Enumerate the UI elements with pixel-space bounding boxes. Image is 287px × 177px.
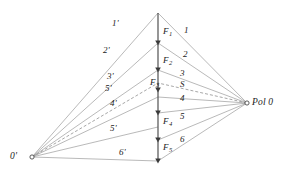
right-ray-label-3: S: [180, 80, 185, 89]
diagram-canvas: [0, 0, 287, 177]
left-ray-2p-1: [32, 43, 158, 157]
left-ray-label-4: 4': [110, 99, 117, 108]
left-ray-label-5: 5': [110, 124, 117, 133]
right-pole-marker: [245, 101, 249, 105]
left-ray-group: [32, 13, 158, 161]
right-ray-label-0: 1: [184, 26, 189, 35]
right-pole-label: Pol 0: [252, 98, 273, 108]
left-ray-label-6: 6': [119, 148, 126, 157]
left-pole-marker: [30, 155, 34, 159]
left-ray-5p-3: [32, 83, 158, 157]
force-label-2: F2: [163, 56, 172, 65]
right-ray-label-6: 6: [180, 135, 185, 144]
right-ray-label-1: 2: [183, 50, 188, 59]
left-ray-3p-2: [32, 70, 158, 157]
force-label-1: F1: [163, 27, 172, 36]
left-ray-4p-4: [32, 97, 158, 157]
pole-marker-group: [30, 101, 249, 159]
left-ray-label-1: 2': [103, 46, 110, 55]
left-pole-label: 0': [10, 152, 17, 162]
force-label-4: F4: [163, 117, 172, 126]
force-label-5: F5: [163, 143, 172, 152]
left-ray-label-2: 3': [107, 72, 114, 81]
left-ray-1p-0: [32, 13, 158, 157]
right-ray-label-2: 3: [180, 69, 185, 78]
right-ray-label-4: 4: [180, 94, 185, 103]
force-label-3: F3: [150, 78, 159, 87]
left-ray-5p-5: [32, 127, 158, 157]
left-ray-label-3: 5': [105, 84, 112, 93]
right-ray-2-1: [158, 43, 247, 103]
force-polygon-diagram: 0'Pol 0F1F2F3F4F51'2'3'5'4'5'6'123S456: [0, 0, 287, 177]
right-ray-label-5: 5: [180, 112, 185, 121]
left-ray-6p-6: [32, 157, 158, 161]
left-ray-label-0: 1': [112, 19, 119, 28]
